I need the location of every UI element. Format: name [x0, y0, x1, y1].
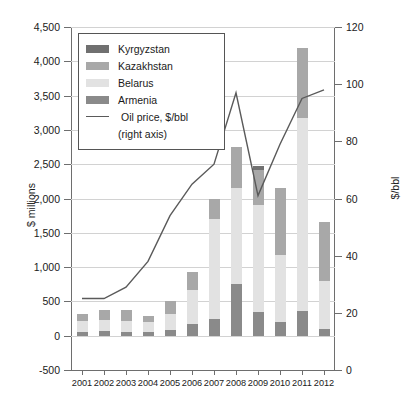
x-axis-tick — [170, 370, 171, 375]
x-axis-tick — [192, 370, 193, 375]
legend-label: Belarus — [118, 77, 154, 89]
y-axis-right-tick — [335, 313, 342, 314]
x-axis-tick — [214, 370, 215, 375]
x-axis-label-2007: 2007 — [204, 378, 224, 388]
y-axis-left-tick — [64, 61, 71, 62]
y-axis-left-label: 1,000 — [0, 261, 60, 273]
legend-item-oil-price-bbl: Oil price, $/bbl — [86, 108, 217, 125]
x-axis-tick — [104, 370, 105, 375]
legend-line-icon — [86, 116, 109, 117]
y-axis-right-label: 40 — [346, 250, 358, 262]
y-axis-left-label: 4,500 — [0, 21, 60, 33]
y-axis-left-tick — [64, 96, 71, 97]
y-axis-left-label: -500 — [0, 364, 60, 376]
y-axis-left-title: $ millions — [25, 183, 37, 227]
y-axis-right-title: $/bbl — [390, 177, 401, 200]
x-axis-tick — [126, 370, 127, 375]
legend-label: Oil price, $/bbl — [121, 111, 188, 123]
x-axis-label-2001: 2001 — [72, 378, 92, 388]
legend-swatch-icon — [86, 96, 109, 104]
y-axis-right-tick — [335, 256, 342, 257]
x-axis-label-2004: 2004 — [138, 378, 158, 388]
y-axis-left-tick — [64, 164, 71, 165]
y-axis-right-tick — [335, 27, 342, 28]
legend-label: Armenia — [118, 94, 157, 106]
y-axis-right-tick — [335, 199, 342, 200]
y-axis-left-label: 1,500 — [0, 227, 60, 239]
y-axis-left-tick — [64, 199, 71, 200]
chart-legend: KyrgyzstanKazakhstanBelarusArmeniaOil pr… — [78, 33, 225, 150]
x-axis-tick — [302, 370, 303, 375]
x-axis-label-2006: 2006 — [182, 378, 202, 388]
y-axis-right-label: 100 — [346, 78, 364, 90]
legend-sublabel: (right axis) — [118, 128, 167, 140]
x-axis-tick — [258, 370, 259, 375]
y-axis-right-label: 80 — [346, 135, 358, 147]
x-axis-label-2008: 2008 — [226, 378, 246, 388]
legend-swatch-icon — [86, 45, 109, 53]
y-axis-left-label: 2,000 — [0, 193, 60, 205]
x-axis-tick — [82, 370, 83, 375]
x-axis-label-2012: 2012 — [314, 378, 334, 388]
chart-container: $ millions $/bbl 4,5004,0003,5003,0002,5… — [0, 0, 401, 409]
legend-item-right-axis: (right axis) — [86, 125, 217, 142]
x-axis-tick — [148, 370, 149, 375]
x-axis-label-2002: 2002 — [94, 378, 114, 388]
x-axis-tick — [280, 370, 281, 375]
y-axis-left-tick — [64, 267, 71, 268]
y-axis-left-label: 3,500 — [0, 90, 60, 102]
y-axis-right-label: 20 — [346, 307, 358, 319]
legend-item-kyrgyzstan: Kyrgyzstan — [86, 40, 217, 57]
legend-swatch-icon — [86, 62, 109, 70]
y-axis-left-tick — [64, 301, 71, 302]
y-axis-left-tick — [64, 370, 71, 371]
y-axis-left-tick — [64, 130, 71, 131]
y-axis-right-tick — [335, 141, 342, 142]
x-axis-label-2003: 2003 — [116, 378, 136, 388]
y-axis-right-label: 0 — [346, 364, 352, 376]
legend-swatch-icon — [86, 79, 109, 87]
y-axis-right-label: 120 — [346, 21, 364, 33]
y-axis-left-label: 0 — [0, 330, 60, 342]
y-axis-right-tick — [335, 84, 342, 85]
legend-label: Kazakhstan — [118, 60, 173, 72]
x-axis-tick — [236, 370, 237, 375]
y-axis-right-tick — [335, 370, 342, 371]
x-axis-tick — [324, 370, 325, 375]
gridline — [71, 370, 335, 371]
y-axis-left-tick — [64, 233, 71, 234]
x-axis-label-2010: 2010 — [270, 378, 290, 388]
x-axis-label-2009: 2009 — [248, 378, 268, 388]
legend-item-belarus: Belarus — [86, 74, 217, 91]
y-axis-left-tick — [64, 336, 71, 337]
y-axis-left-label: 4,000 — [0, 55, 60, 67]
y-axis-left-label: 3,000 — [0, 124, 60, 136]
legend-item-armenia: Armenia — [86, 91, 217, 108]
x-axis-label-2011: 2011 — [292, 378, 312, 388]
y-axis-left-label: 2,500 — [0, 158, 60, 170]
legend-item-kazakhstan: Kazakhstan — [86, 57, 217, 74]
y-axis-left-tick — [64, 27, 71, 28]
x-axis-label-2005: 2005 — [160, 378, 180, 388]
y-axis-right-label: 60 — [346, 193, 358, 205]
legend-label: Kyrgyzstan — [118, 43, 170, 55]
y-axis-left-label: 500 — [0, 295, 60, 307]
